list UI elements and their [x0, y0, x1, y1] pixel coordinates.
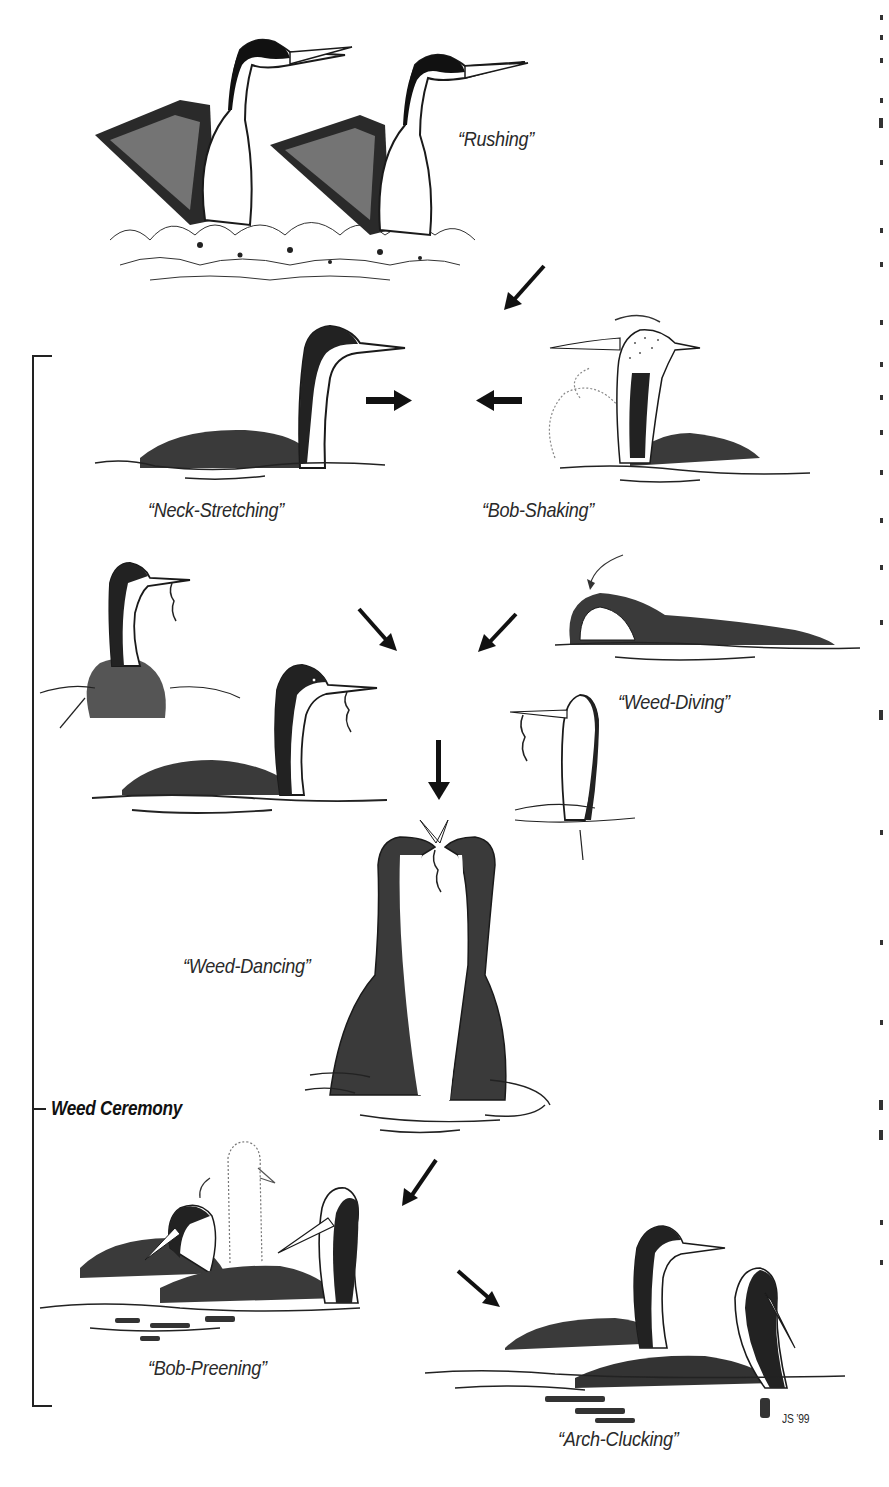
label-bob-shaking: “Bob-Shaking” [482, 498, 594, 522]
bracket-top-cap [32, 355, 52, 357]
label-bob-preening: “Bob-Preening” [148, 1356, 267, 1380]
label-arch-clucking: “Arch-Clucking” [558, 1427, 679, 1451]
weed-carrying-grebe-illustration [92, 660, 392, 830]
label-weed-diving: “Weed-Diving” [618, 690, 730, 714]
arrow-down-left-icon-2 [474, 610, 520, 654]
arrow-down-left-icon [500, 262, 550, 312]
arrow-down-left-icon-3 [398, 1156, 440, 1208]
weed-dancing-illustration [300, 815, 570, 1135]
arch-clucking-illustration [425, 1218, 865, 1438]
group-label-weed-ceremony: Weed Ceremony [51, 1097, 182, 1120]
arrow-right-icon [366, 390, 414, 412]
arrow-left-icon [476, 390, 524, 412]
label-neck-stretching: “Neck-Stretching” [148, 498, 284, 522]
rushing-illustration [90, 30, 530, 290]
arrow-down-icon [426, 740, 452, 802]
artist-signature: JS ’99 [782, 1412, 809, 1426]
bracket-label-tick [32, 1108, 46, 1110]
bracket-bottom-cap [32, 1405, 52, 1407]
bob-shaking-illustration [520, 308, 820, 488]
grebe-courtship-diagram: “Rushing” “Neck-Stretching” [0, 0, 889, 1487]
weed-ceremony-bracket [32, 355, 34, 1407]
weed-diving-grebe-illustration [555, 545, 865, 665]
clipped-page-text-edge [878, 0, 886, 1330]
label-rushing: “Rushing” [458, 127, 534, 151]
label-weed-dancing: “Weed-Dancing” [183, 954, 311, 978]
arrow-down-right-icon [355, 605, 401, 653]
bob-preening-illustration [40, 1138, 370, 1348]
